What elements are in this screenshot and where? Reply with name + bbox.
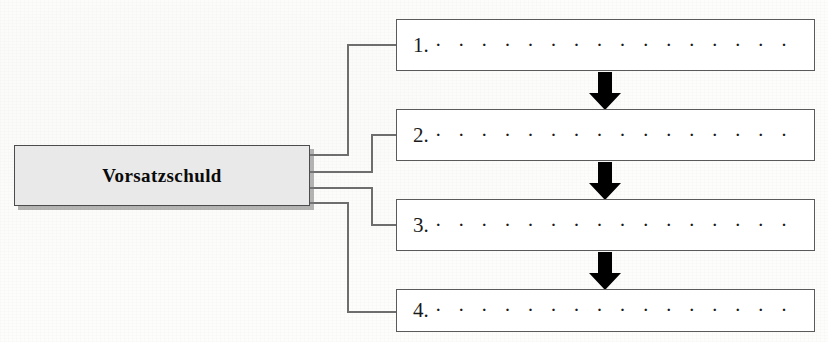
item-dotted-line-1[interactable]: · · · · · · · · · · · · · · · · · · · · … (435, 35, 800, 56)
item-number-3: 3. (413, 215, 429, 236)
source-node-vorsatzschuld: Vorsatzschuld (14, 145, 310, 206)
item-content-4: 4. · · · · · · · · · · · · · · · · · · ·… (397, 300, 814, 321)
item-dotted-line-3[interactable]: · · · · · · · · · · · · · · · · · · · · … (435, 215, 800, 236)
item-box-3: 3. · · · · · · · · · · · · · · · · · · ·… (396, 199, 815, 251)
down-arrow-icon-1 (589, 72, 621, 110)
down-arrow-icon-3 (589, 252, 621, 290)
item-number-1: 1. (413, 35, 429, 56)
item-dotted-line-4[interactable]: · · · · · · · · · · · · · · · · · · · · … (435, 300, 800, 321)
diagram-page: g Vorsatzschuld 1. · · · · · · · · · · ·… (0, 0, 828, 342)
item-content-1: 1. · · · · · · · · · · · · · · · · · · ·… (397, 35, 814, 56)
item-content-2: 2. · · · · · · · · · · · · · · · · · · ·… (397, 125, 814, 146)
item-box-2: 2. · · · · · · · · · · · · · · · · · · ·… (396, 109, 815, 161)
item-content-3: 3. · · · · · · · · · · · · · · · · · · ·… (397, 215, 814, 236)
item-box-4: 4. · · · · · · · · · · · · · · · · · · ·… (396, 289, 815, 332)
item-number-4: 4. (413, 300, 429, 321)
item-dotted-line-2[interactable]: · · · · · · · · · · · · · · · · · · · · … (435, 125, 800, 146)
connector-to-item-3 (310, 188, 396, 225)
connector-to-item-1 (310, 45, 396, 155)
item-number-2: 2. (413, 125, 429, 146)
connector-to-item-2 (310, 135, 396, 172)
down-arrow-icon-2 (589, 162, 621, 200)
source-node-label: Vorsatzschuld (102, 165, 222, 187)
connector-to-item-4 (310, 203, 396, 312)
item-box-1: 1. · · · · · · · · · · · · · · · · · · ·… (396, 19, 815, 71)
